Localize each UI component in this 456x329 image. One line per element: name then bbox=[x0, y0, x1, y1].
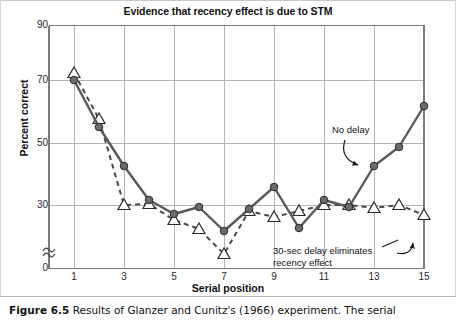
annotation-leader-delay bbox=[382, 240, 398, 247]
caption-divider bbox=[0, 296, 456, 297]
figure-caption-label: Figure 6.5 bbox=[9, 304, 69, 316]
annotation-delay: 30-sec delay eliminates recency effect bbox=[273, 245, 372, 268]
gridlines-horizontal bbox=[49, 81, 424, 206]
figure-container: Evidence that recency effect is due to S… bbox=[0, 0, 456, 329]
plot-area bbox=[0, 0, 456, 296]
annotation-no-delay: No delay bbox=[332, 124, 370, 136]
annotation-arrow-delay bbox=[397, 243, 413, 254]
figure-caption: Figure 6.5 Results of Glanzer and Cunitz… bbox=[9, 304, 449, 316]
figure-caption-text: Results of Glanzer and Cunitz's (1966) e… bbox=[73, 304, 396, 316]
